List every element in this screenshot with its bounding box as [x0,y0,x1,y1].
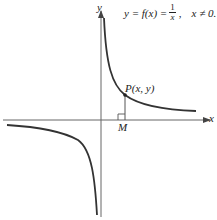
fraction-denominator: x [171,13,175,22]
function-equation: y = f(x) = 1 x , x ≠ 0. [124,3,216,22]
x-axis-label: x [209,112,214,124]
fraction: 1 x [169,3,176,22]
equation-condition: x ≠ 0. [192,7,217,19]
point-p-label: P(x, y) [125,82,154,94]
equation-lhs: y = f(x) = [124,7,167,19]
y-axis-label: y [97,1,102,13]
hyperbola-branch-negative [7,125,97,215]
hyperbola-diagram [0,0,217,220]
right-angle-mark [118,114,125,120]
hyperbola-branch-positive [104,18,196,111]
point-m-label: M [118,121,127,133]
